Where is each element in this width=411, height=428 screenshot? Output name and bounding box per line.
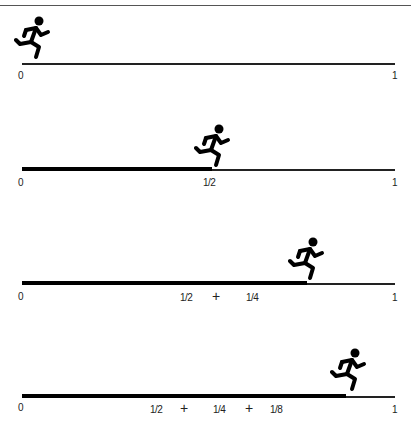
label-zero: 0 — [18, 402, 24, 413]
label-plus: + — [180, 400, 188, 416]
label-half: 1/2 — [150, 404, 162, 415]
label-eighth: 1/8 — [270, 404, 282, 415]
progress-bar — [22, 394, 346, 398]
label-one: 1 — [392, 404, 398, 415]
runner-icon — [330, 348, 370, 392]
label-quarter: 1/4 — [213, 404, 225, 415]
label-plus: + — [245, 400, 253, 416]
panel-seven-eighths: 0 1/2 + 1/4 + 1/8 1 — [0, 0, 411, 428]
